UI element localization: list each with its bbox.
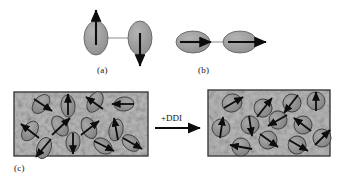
panel-c-group [0,85,343,186]
panel-b-label: (b) [198,65,209,75]
panel-c-left-box [14,89,148,161]
panel-a-label: (a) [97,65,108,75]
panel-c-right-box [208,90,334,158]
figure-root: (a) (b) [0,0,343,186]
process-arrow-label: +DDI [161,113,182,123]
top-row-diagrams [0,0,343,88]
panel-a-group [84,10,152,66]
panel-b-group [176,31,266,53]
panel-c-label: (c) [14,163,25,173]
